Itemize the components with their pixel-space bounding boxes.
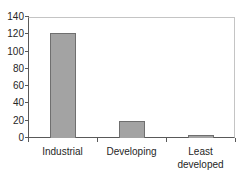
y-axis-tick-label: 0 <box>0 132 24 144</box>
x-axis-tick-mark <box>97 138 98 142</box>
y-axis-tick-label: 100 <box>0 46 24 58</box>
y-axis-tick-label: 140 <box>0 11 24 23</box>
y-axis-tick-label: 20 <box>0 115 24 127</box>
x-axis-category-label: Industrial <box>28 145 97 158</box>
bar-industrial <box>50 33 76 138</box>
x-axis-tick-mark <box>166 138 167 142</box>
y-axis-tick-mark <box>25 85 29 86</box>
y-axis-tick-mark <box>25 33 29 34</box>
x-axis-tick-mark <box>235 138 236 142</box>
y-axis-tick-mark <box>25 120 29 121</box>
x-axis-category-label: Developing <box>97 145 166 158</box>
y-axis-tick-mark <box>25 102 29 103</box>
y-axis-tick-mark <box>25 16 29 17</box>
y-axis-tick-label: 80 <box>0 63 24 75</box>
y-axis-tick-mark <box>25 68 29 69</box>
y-axis-tick-label: 60 <box>0 80 24 92</box>
bar-developing <box>119 121 145 138</box>
y-axis-tick-label: 40 <box>0 97 24 109</box>
y-axis-tick-label: 120 <box>0 28 24 40</box>
y-axis-tick-mark <box>25 51 29 52</box>
bar-least-developed <box>188 135 214 138</box>
x-axis-category-label: Least developed <box>166 145 235 171</box>
x-axis-tick-mark <box>28 138 29 142</box>
bar-chart: 020406080100120140 IndustrialDevelopingL… <box>0 0 246 183</box>
